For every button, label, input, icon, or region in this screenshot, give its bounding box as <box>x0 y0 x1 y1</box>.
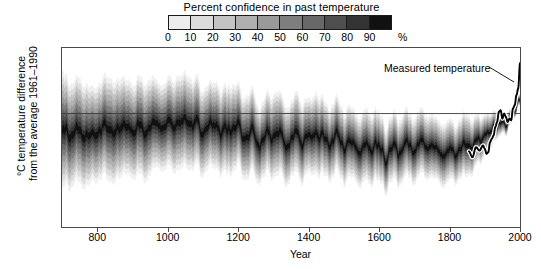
colorbar-tick-0: 0 <box>165 31 171 44</box>
colorbar-swatch-90 <box>370 16 391 29</box>
colorbar-tick-20: 20 <box>207 31 219 44</box>
colorbar-unit-label: % <box>398 31 407 44</box>
y-axis-label-line2: from the average 1961–1990 <box>27 51 39 181</box>
x-tick-label: 1400 <box>297 232 320 243</box>
x-tick-label: 2000 <box>508 232 531 243</box>
colorbar-tick-90: 90 <box>364 31 376 44</box>
colorbar-tick-60: 60 <box>297 31 309 44</box>
colorbar-swatch-20 <box>214 16 236 29</box>
colorbar-tick-50: 50 <box>274 31 286 44</box>
legend-title: Percent confidence in past temperature <box>0 1 541 14</box>
x-tick-label: 800 <box>88 232 106 243</box>
y-axis-label-line1: °C temperature difference <box>15 51 27 181</box>
colorbar-tick-10: 10 <box>185 31 197 44</box>
colorbar-tick-labels: 0102030405060708090 <box>168 31 392 45</box>
measured-temperature-annotation: Measured temperature <box>384 62 490 74</box>
colorbar-tick-40: 40 <box>252 31 264 44</box>
colorbar-swatch-40 <box>258 16 280 29</box>
x-axis-label: Year <box>0 248 541 260</box>
colorbar-swatch-70 <box>325 16 347 29</box>
x-tick-label: 1200 <box>226 232 249 243</box>
x-tick-label: 1600 <box>367 232 390 243</box>
plot-area <box>61 47 521 228</box>
colorbar-tick-70: 70 <box>319 31 331 44</box>
colorbar-tick-30: 30 <box>229 31 241 44</box>
colorbar-swatch-60 <box>303 16 325 29</box>
colorbar-swatch-10 <box>191 16 213 29</box>
confidence-colorbar <box>168 15 392 30</box>
colorbar-tick-80: 80 <box>341 31 353 44</box>
x-tick-label: 1800 <box>438 232 461 243</box>
colorbar-swatch-50 <box>280 16 302 29</box>
colorbar-swatch-30 <box>236 16 258 29</box>
colorbar-swatch-0 <box>169 16 191 29</box>
x-tick-label: 1000 <box>156 232 179 243</box>
colorbar-swatch-80 <box>347 16 369 29</box>
climate-reconstruction-figure: Percent confidence in past temperature 0… <box>0 0 541 269</box>
confidence-band-plot <box>62 48 520 227</box>
